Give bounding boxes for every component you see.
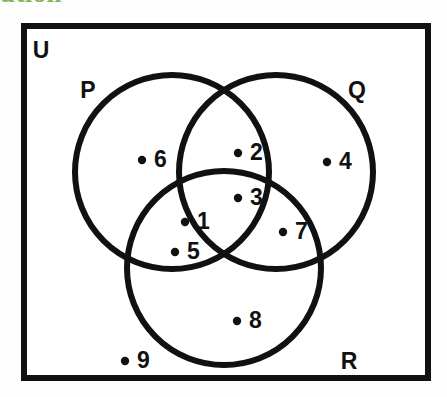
- element-dot: [171, 248, 179, 256]
- set-label-p: P: [80, 77, 95, 103]
- element-dot: [234, 149, 242, 157]
- element-dot: [233, 317, 241, 325]
- element-value: 1: [197, 208, 210, 234]
- element-dot: [181, 218, 189, 226]
- set-label-r: R: [341, 348, 358, 374]
- element-dot: [279, 228, 287, 236]
- element-value: 5: [187, 238, 200, 264]
- element-dot: [121, 357, 129, 365]
- element-value: 6: [154, 146, 167, 172]
- element-value: 2: [250, 139, 263, 165]
- universal-set-label: U: [33, 37, 50, 63]
- element-value: 4: [339, 148, 352, 174]
- element-dot: [138, 156, 146, 164]
- venn-diagram-svg: U P Q R 123456789: [0, 0, 447, 397]
- set-label-q: Q: [348, 77, 366, 103]
- element-value: 7: [295, 218, 308, 244]
- element-dot: [234, 194, 242, 202]
- element-value: 8: [249, 307, 262, 333]
- element-dot: [323, 158, 331, 166]
- element-value: 9: [137, 347, 150, 373]
- diagram-canvas: ution U P Q R 123456789: [0, 0, 447, 397]
- element-value: 3: [250, 184, 263, 210]
